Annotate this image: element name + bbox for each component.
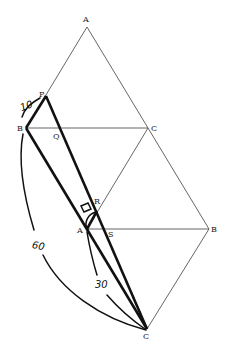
measure-10: 10 bbox=[19, 98, 35, 113]
label-r: R bbox=[94, 197, 101, 206]
label-c-mid: C bbox=[151, 124, 157, 133]
measurement-labels: 10 60 30 bbox=[19, 98, 108, 290]
label-b-right: B bbox=[211, 225, 217, 234]
label-a-top: A bbox=[82, 15, 89, 24]
measure-30: 30 bbox=[95, 279, 108, 290]
label-c-bottom: C bbox=[143, 332, 149, 341]
label-a-mid: A bbox=[76, 226, 83, 235]
label-q: Q bbox=[53, 132, 60, 141]
arc-60-upper bbox=[21, 134, 34, 230]
square-icon bbox=[81, 203, 91, 212]
point-labels: A P B Q C R A S B C bbox=[17, 15, 217, 341]
label-b-left: B bbox=[17, 124, 23, 133]
label-p: P bbox=[39, 90, 45, 99]
line-b-c-bottom bbox=[147, 229, 209, 329]
label-s: S bbox=[108, 230, 113, 239]
highlighted-path bbox=[26, 96, 147, 329]
geometry-diagram: A P B Q C R A S B C 10 60 30 bbox=[0, 0, 236, 362]
construction-lines bbox=[26, 27, 209, 329]
measure-60: 60 bbox=[31, 239, 45, 252]
